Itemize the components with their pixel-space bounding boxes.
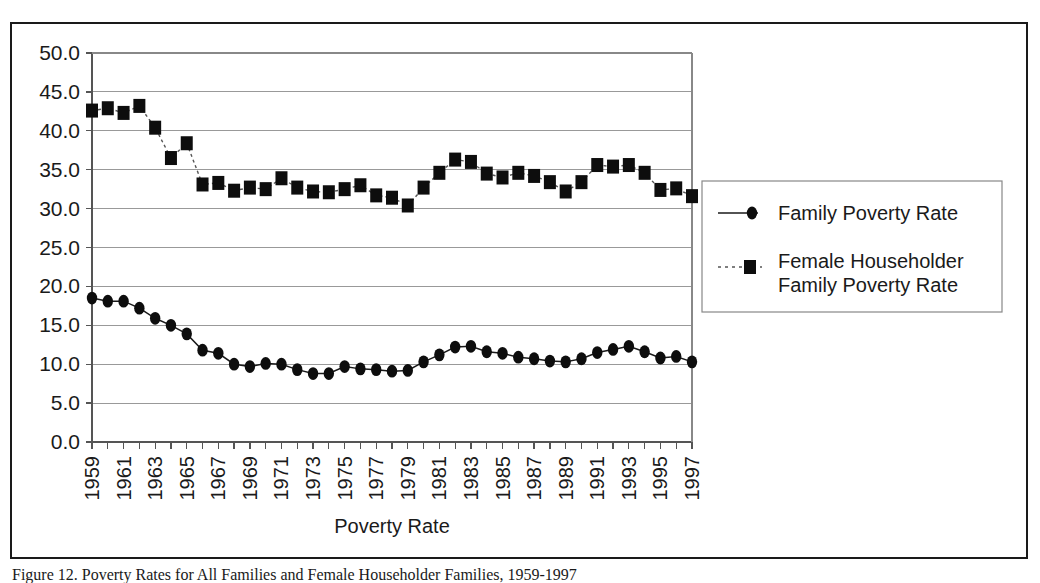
x-axis-tick-label: 1987 xyxy=(523,456,545,501)
data-point-marker xyxy=(544,175,556,189)
data-point-marker xyxy=(118,106,130,120)
data-point-marker xyxy=(244,181,256,195)
data-point-marker xyxy=(450,341,460,354)
y-axis-tick-label: 25.0 xyxy=(39,236,80,259)
data-point-marker xyxy=(560,355,570,368)
data-point-marker xyxy=(275,171,287,185)
data-point-marker xyxy=(197,177,209,191)
x-axis-tick-label: 1977 xyxy=(365,456,387,501)
data-point-marker xyxy=(134,302,144,315)
data-point-marker xyxy=(308,367,318,380)
data-point-marker xyxy=(355,362,365,375)
x-axis-tick-label: 1975 xyxy=(334,456,356,501)
data-point-marker xyxy=(402,198,414,212)
data-point-marker xyxy=(560,184,572,198)
data-point-marker xyxy=(324,367,334,380)
data-point-marker xyxy=(260,182,272,196)
x-axis-title-group: Poverty Rate xyxy=(334,515,450,537)
data-point-marker xyxy=(591,158,603,172)
x-axis-tick-label: 1973 xyxy=(302,456,324,501)
data-point-marker xyxy=(482,345,492,358)
data-point-marker xyxy=(639,345,649,358)
data-point-marker xyxy=(576,352,586,365)
data-point-marker xyxy=(655,352,665,365)
x-axis-tick-label: 1963 xyxy=(144,456,166,501)
chart-plot-container: 50.045.040.035.030.025.020.015.010.05.00… xyxy=(12,24,1030,561)
data-point-marker xyxy=(434,348,444,361)
data-point-marker xyxy=(513,351,523,364)
data-point-marker xyxy=(102,101,114,115)
data-point-marker xyxy=(465,155,477,169)
data-point-marker xyxy=(307,184,319,198)
x-axis-tick-label: 1989 xyxy=(555,456,577,501)
data-point-marker xyxy=(481,167,493,181)
data-point-marker xyxy=(512,166,524,180)
data-point-marker xyxy=(497,347,507,360)
y-axis-tick-label: 10.0 xyxy=(39,352,80,375)
data-point-marker xyxy=(260,357,270,370)
data-point-marker xyxy=(245,360,255,373)
data-point-marker xyxy=(607,160,619,174)
gridlines-group xyxy=(86,53,692,442)
data-point-marker xyxy=(181,136,193,150)
y-axis-tick-label: 5.0 xyxy=(51,391,80,414)
data-point-marker xyxy=(212,176,224,190)
y-axis-tick-label: 45.0 xyxy=(39,80,80,103)
data-point-marker xyxy=(103,295,113,308)
data-point-marker xyxy=(182,327,192,340)
x-axis-tick-label: 1959 xyxy=(81,456,103,501)
data-point-marker xyxy=(229,358,239,371)
figure-caption: Figure 12. Poverty Rates for All Familie… xyxy=(12,566,1012,583)
data-point-marker xyxy=(528,169,540,183)
data-point-marker xyxy=(87,292,97,305)
legend-marker-circle xyxy=(747,207,757,220)
data-series-group xyxy=(86,99,698,380)
y-axis-tick-label: 0.0 xyxy=(51,430,80,453)
x-axis-tick-label: 1967 xyxy=(207,456,229,501)
data-point-marker xyxy=(433,166,445,180)
data-point-marker xyxy=(276,358,286,371)
data-point-marker xyxy=(418,181,430,195)
y-axis-tick-label: 30.0 xyxy=(39,197,80,220)
y-axis-tick-label: 20.0 xyxy=(39,274,80,297)
series-line-2 xyxy=(92,106,692,206)
x-axis-tick-label: 1979 xyxy=(397,456,419,501)
data-point-marker xyxy=(133,99,145,113)
x-axis-tick-label: 1969 xyxy=(239,456,261,501)
x-axis-tick-label: 1971 xyxy=(270,456,292,501)
x-axis-tick-label: 1961 xyxy=(113,456,135,501)
data-point-marker xyxy=(118,295,128,308)
data-point-marker xyxy=(403,364,413,377)
data-point-marker xyxy=(86,104,98,118)
data-point-marker xyxy=(418,355,428,368)
data-point-marker xyxy=(292,363,302,376)
data-point-marker xyxy=(449,153,461,167)
data-point-marker xyxy=(339,182,351,196)
data-point-marker xyxy=(608,343,618,356)
data-point-marker xyxy=(197,344,207,357)
y-axis-tick-labels: 50.045.040.035.030.025.020.015.010.05.00… xyxy=(39,41,80,453)
x-axis-tick-label: 1965 xyxy=(176,456,198,501)
data-point-marker xyxy=(687,355,697,368)
data-point-marker xyxy=(592,346,602,359)
legend-label-female-householder-line2: Family Poverty Rate xyxy=(778,274,958,296)
data-point-marker xyxy=(213,347,223,360)
data-point-marker xyxy=(639,166,651,180)
data-point-marker xyxy=(149,121,161,135)
x-axis-tick-label: 1997 xyxy=(681,456,703,501)
data-point-marker xyxy=(339,360,349,373)
x-axis-tick-label: 1991 xyxy=(586,456,608,501)
data-point-marker xyxy=(624,340,634,353)
data-point-marker xyxy=(529,352,539,365)
y-axis-tick-label: 40.0 xyxy=(39,119,80,142)
data-point-marker xyxy=(654,183,666,197)
legend-marker-square xyxy=(744,260,756,274)
x-axis-tick-labels: 1959196119631965196719691971197319751977… xyxy=(81,442,703,501)
data-point-marker xyxy=(291,181,303,195)
data-point-marker xyxy=(371,363,381,376)
y-axis-tick-label: 50.0 xyxy=(39,41,80,64)
y-axis-tick-label: 35.0 xyxy=(39,158,80,181)
poverty-rate-line-chart: 50.045.040.035.030.025.020.015.010.05.00… xyxy=(12,24,1030,561)
data-point-marker xyxy=(623,158,635,172)
y-axis-tick-label: 15.0 xyxy=(39,313,80,336)
